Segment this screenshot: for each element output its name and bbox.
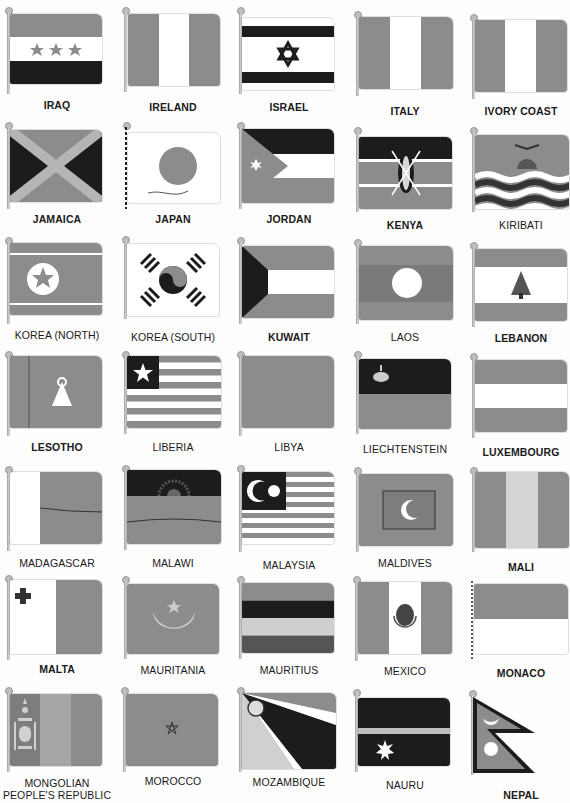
flag-label: JAMAICA	[0, 213, 114, 225]
flag-mali	[475, 472, 569, 548]
flag-card-nepal: NEPAL	[464, 680, 570, 795]
flag-label: LIBYA	[232, 441, 346, 453]
flag-iraq	[10, 14, 102, 84]
flag-label: KOREA (SOUTH)	[116, 331, 230, 343]
flag-kuwait	[242, 246, 334, 318]
flag-card-nauru: NAURU	[348, 680, 462, 795]
flag-mauritania	[127, 584, 219, 654]
flag-jordan	[242, 129, 334, 203]
flag-kenya	[359, 137, 452, 209]
flag-card-korea-north: KOREA (NORTH)	[0, 230, 114, 345]
flag-label: KOREA (NORTH)	[0, 329, 114, 341]
flag-card-iraq: IRAQ	[0, 0, 114, 115]
flag-card-mali: MALI	[464, 460, 570, 575]
flag-label: JAPAN	[116, 213, 230, 225]
flag-mozambique	[242, 693, 336, 769]
flag-label: NAURU	[348, 779, 462, 791]
flag-malawi	[127, 470, 221, 544]
flag-label: IRAQ	[0, 99, 114, 111]
flag-korea-south	[127, 244, 219, 316]
flag-card-ivory-coast: IVORY COAST	[464, 0, 570, 115]
flag-nauru	[358, 698, 450, 766]
flag-jamaica	[10, 130, 102, 202]
flag-card-liberia: LIBERIA	[116, 345, 230, 460]
flag-card-kuwait: KUWAIT	[232, 230, 346, 345]
flag-kiribati	[475, 135, 569, 209]
flag-card-israel: ISRAEL	[232, 0, 346, 115]
flag-card-mauritania: MAURITANIA	[116, 570, 230, 685]
flag-label: NEPAL	[464, 789, 570, 801]
flag-label: MEXICO	[348, 665, 462, 677]
flag-mauritius	[242, 583, 334, 653]
flag-card-lebanon: LEBANON	[464, 230, 570, 345]
flag-malaysia	[242, 472, 334, 544]
flag-label: IRELAND	[116, 101, 230, 113]
flag-chart: IRAQ IRELAND ISRAEL ITALY IVORY COAST	[0, 0, 570, 803]
flag-card-ireland: IRELAND	[116, 0, 230, 115]
flag-card-jamaica: JAMAICA	[0, 115, 114, 230]
flag-card-korea-south: KOREA (SOUTH)	[116, 230, 230, 345]
flag-label: MALAWI	[116, 557, 230, 569]
flag-label: MONACO	[464, 667, 570, 679]
flag-mongolia	[10, 694, 102, 766]
flag-card-mauritius: MAURITIUS	[232, 570, 346, 685]
flag-label: MAURITANIA	[116, 664, 230, 676]
flag-label: KUWAIT	[232, 331, 346, 343]
flag-liechtenstein	[359, 359, 451, 429]
flag-card-morocco: MOROCCO	[116, 680, 230, 795]
flag-label: MOZAMBIQUE	[232, 776, 346, 788]
flag-card-laos: LAOS	[348, 230, 462, 345]
flag-luxembourg	[475, 360, 567, 432]
flag-liberia	[127, 356, 221, 428]
flag-madagascar	[10, 472, 102, 544]
flag-card-madagascar: MADAGASCAR	[0, 460, 114, 575]
flag-label: MADAGASCAR	[0, 557, 114, 569]
flag-label: LAOS	[348, 331, 462, 343]
flag-label: LIECHTENSTEIN	[348, 443, 462, 455]
flag-mexico	[358, 582, 452, 654]
flag-card-japan: JAPAN	[116, 115, 230, 230]
flag-card-kenya: KENYA	[348, 115, 462, 230]
flag-label: MAURITIUS	[232, 664, 346, 676]
flag-nepal	[473, 697, 535, 773]
flag-card-kiribati: KIRIBATI	[464, 115, 570, 230]
flag-italy	[359, 17, 453, 89]
flag-label: LEBANON	[464, 332, 570, 344]
flag-korea-north	[10, 243, 102, 315]
flag-card-jordan: JORDAN	[232, 115, 346, 230]
flag-card-mongolia: MONGOLIAN PEOPLE'S REPUBLIC	[0, 680, 114, 795]
flag-card-malaysia: MALAYSIA	[232, 460, 346, 575]
flag-card-lesotho: LESOTHO	[0, 345, 114, 460]
flag-card-mozambique: MOZAMBIQUE	[232, 680, 346, 795]
flag-label: LESOTHO	[0, 441, 114, 453]
flag-label: MALTA	[0, 663, 114, 675]
flag-japan	[128, 133, 220, 203]
flag-card-mexico: MEXICO	[348, 570, 462, 685]
flag-label: JORDAN	[232, 213, 346, 225]
flag-monaco	[474, 584, 568, 654]
flag-label: LUXEMBOURG	[464, 446, 570, 458]
flag-card-maldives: MALDIVES	[348, 460, 462, 575]
flag-card-liechtenstein: LIECHTENSTEIN	[348, 345, 462, 460]
flag-ivory-coast	[475, 20, 567, 92]
flag-lebanon	[475, 249, 567, 321]
flag-card-luxembourg: LUXEMBOURG	[464, 345, 570, 460]
flag-label: MOROCCO	[116, 775, 230, 787]
flag-lesotho	[10, 356, 102, 428]
flag-maldives	[359, 474, 453, 546]
flag-laos	[359, 246, 453, 320]
flag-card-monaco: MONACO	[464, 570, 570, 685]
flag-card-malta: MALTA	[0, 570, 114, 685]
flag-label: LIBERIA	[116, 441, 230, 453]
flag-malta	[10, 580, 102, 654]
flag-card-libya: LIBYA	[232, 345, 346, 460]
flag-label: MALDIVES	[348, 557, 462, 569]
flag-card-malawi: MALAWI	[116, 460, 230, 575]
flag-ireland	[128, 14, 220, 86]
flag-card-italy: ITALY	[348, 0, 462, 115]
flag-label: MONGOLIAN PEOPLE'S REPUBLIC	[0, 777, 114, 801]
flag-morocco	[126, 694, 218, 766]
flag-libya	[242, 356, 334, 428]
flag-israel	[242, 18, 334, 90]
flag-label: ISRAEL	[232, 101, 346, 113]
